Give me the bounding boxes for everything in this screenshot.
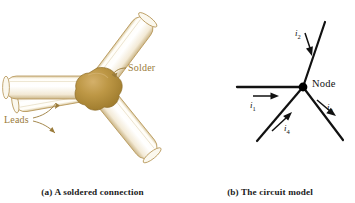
node-label: Node [312, 78, 336, 89]
caption-panel-b: (b) The circuit model [185, 187, 355, 197]
current-subscript-i3: 3 [330, 107, 333, 114]
figure-root: Solder Leads (a) A soldered connection [0, 0, 355, 203]
soldered-connection-illustration [0, 0, 185, 185]
branch-down-right [303, 87, 343, 140]
caption-panel-a: (a) A soldered connection [0, 187, 185, 197]
leads-label: Leads [4, 114, 29, 125]
current-subscript-i2: 2 [298, 33, 301, 40]
current-subscript-i1: 1 [253, 105, 256, 112]
current-label-i3: i3 [327, 102, 333, 114]
circuit-model-illustration [185, 0, 355, 185]
solder-label: Solder [128, 62, 155, 73]
current-label-i4: i4 [284, 123, 290, 135]
current-arrow-i2 [305, 33, 313, 56]
current-subscript-i4: 4 [287, 128, 290, 135]
current-label-i1: i1 [250, 100, 256, 112]
panel-soldered-connection: Solder Leads (a) A soldered connection [0, 0, 185, 203]
node-dot [299, 83, 308, 92]
panel-circuit-model: Node i1 i2 i3 i4 (b) The circuit model [185, 0, 355, 203]
current-label-i2: i2 [295, 28, 301, 40]
branch-down-left [257, 87, 303, 141]
current-arrow-i1 [253, 92, 279, 99]
